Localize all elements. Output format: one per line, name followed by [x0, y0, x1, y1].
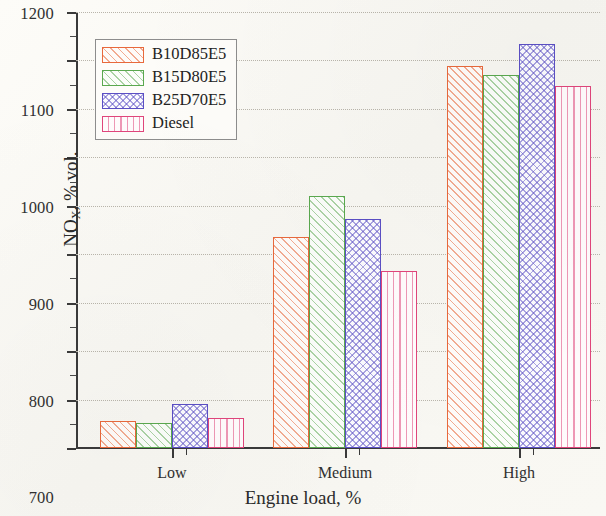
- gridline: [76, 12, 600, 13]
- x-tick-minor: [359, 449, 360, 455]
- x-tick-minor: [533, 449, 534, 455]
- x-tick: [172, 449, 174, 458]
- y-tick-major: 1200: [67, 12, 76, 14]
- bar-B15D80E5-Low: [136, 423, 172, 448]
- bar-Diesel-High: [555, 86, 591, 448]
- y-tick-minor: [70, 278, 76, 279]
- bar-B25D70E5-Low: [172, 404, 208, 448]
- bar-B25D70E5-Medium: [345, 219, 381, 448]
- legend-swatch-B10D85E5: [102, 47, 144, 63]
- chart-figure: 300400500600700800900100011001200 LowMed…: [0, 0, 606, 516]
- bar-Diesel-Low: [208, 418, 244, 448]
- legend-item-B10D85E5[interactable]: B10D85E5: [102, 44, 226, 65]
- y-tick-major: 1000: [67, 109, 76, 111]
- x-axis-title: Engine load, %: [0, 487, 606, 509]
- y-axis-title-subscript: X: [69, 211, 83, 220]
- legend-item-B15D80E5[interactable]: B15D80E5: [102, 67, 226, 88]
- x-category-label-medium: Medium: [318, 464, 372, 482]
- y-tick-minor: [70, 327, 76, 328]
- chart-legend: B10D85E5B15D80E5B25D70E5Diesel: [95, 39, 237, 140]
- legend-swatch-B15D80E5: [102, 70, 144, 86]
- legend-item-B25D70E5[interactable]: B25D70E5: [102, 90, 226, 111]
- bar-B15D80E5-High: [483, 75, 519, 448]
- y-tick-minor: [70, 375, 76, 376]
- bar-Diesel-Medium: [381, 271, 417, 448]
- y-axis-title-main: NO: [60, 219, 81, 246]
- bar-B10D85E5-Low: [100, 421, 136, 448]
- y-tick-minor: [70, 36, 76, 37]
- bar-B10D85E5-High: [447, 66, 483, 448]
- legend-label: B25D70E5: [152, 92, 226, 109]
- y-tick-major: 1100: [67, 60, 76, 62]
- y-tick-label: 1100: [21, 101, 54, 121]
- legend-swatch-Diesel: [102, 116, 144, 132]
- x-category-label-high: High: [503, 464, 535, 482]
- legend-label: Diesel: [152, 115, 194, 132]
- bar-B10D85E5-Medium: [273, 237, 309, 448]
- legend-label: B15D80E5: [152, 69, 226, 86]
- x-category-label-low: Low: [157, 464, 186, 482]
- y-tick-major: 600: [67, 303, 76, 305]
- x-tick: [519, 449, 521, 458]
- bar-B25D70E5-High: [519, 44, 555, 449]
- y-tick-label: 800: [29, 392, 54, 412]
- y-tick-major: 400: [67, 400, 76, 402]
- y-tick-minor: [70, 424, 76, 425]
- legend-swatch-B25D70E5: [102, 93, 144, 109]
- y-tick-major: 500: [67, 351, 76, 353]
- y-tick-label: 1000: [20, 198, 54, 218]
- y-tick-minor: [70, 85, 76, 86]
- legend-item-Diesel[interactable]: Diesel: [102, 113, 226, 134]
- y-axis-title-tail: , % vol.: [60, 151, 81, 210]
- y-tick-major: 300: [67, 448, 76, 450]
- x-tick-minor: [186, 449, 187, 455]
- x-tick: [345, 449, 347, 458]
- y-tick-label: 900: [29, 295, 54, 315]
- y-tick-label: 1200: [20, 4, 54, 24]
- y-axis-title: NOX, % vol.: [60, 124, 82, 274]
- bar-B15D80E5-Medium: [309, 196, 345, 448]
- legend-label: B10D85E5: [152, 46, 226, 63]
